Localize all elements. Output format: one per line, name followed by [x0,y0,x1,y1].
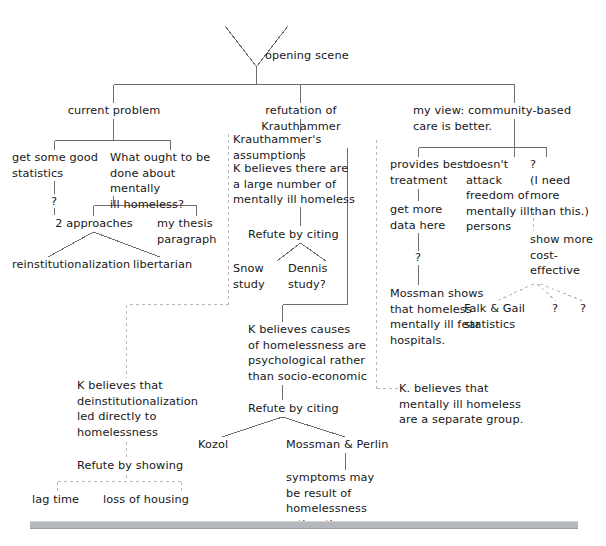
node-k-believes-separate-group: K. believes that mentally ill homeless a… [399,381,529,428]
node-krauthammers-assumptions: Krauthammer's assumptions [233,132,383,163]
node-k-believes-causes-psychological: K believes causes of homelessness are ps… [248,322,384,384]
node-two-approaches: 2 approaches [48,216,140,232]
node-get-some-good-statistics: get some good statistics [12,150,104,181]
node-refute-by-citing-1: Refute by citing [248,227,358,243]
node-dennis-study: Dennis study? [288,261,346,292]
node-current-problem: current problem [58,103,170,119]
node-reinstitutionalization: reinstitutionalization [12,257,132,273]
node-my-view-community-based: my view: community-based care is better. [413,103,593,134]
node-kozol: Kozol [198,437,248,453]
node-refute-by-showing: Refute by showing [77,458,197,474]
node-show-more-cost-effective: show more cost- effective [530,232,602,279]
node-cost-question-1: ? [552,301,558,317]
node-get-more-data-here: get more data here [390,202,462,233]
footer-divider-bar [30,521,578,529]
node-opening-scene: opening scene [265,48,349,64]
node-refutation-of-krauthammer: refutation of Krauthammer [228,103,374,134]
node-libertarian: libertarian [133,257,213,273]
node-k-believes-deinstitutionalization: K believes that deinstitutionalization l… [77,378,197,440]
node-cost-question-2: ? [580,301,586,317]
node-refute-by-citing-2: Refute by citing [248,401,358,417]
node-my-thesis-paragraph: my thesis paragraph [157,216,227,247]
node-lag-time: lag time [32,492,90,508]
node-need-more-than-this: ? (I need more than this.) [530,157,600,219]
node-k-believes-large-number: K believes there are a large number of m… [233,161,363,208]
node-mossman-and-perlin: Mossman & Perlin [286,437,406,453]
node-loss-of-housing: loss of housing [103,492,203,508]
node-doesnt-attack-freedom: doesn't attack freedom of mentally ill p… [466,157,530,235]
node-stats-question: ? [51,194,57,210]
node-provides-best-treatment: provides best treatment [390,157,474,188]
node-snow-study: Snow study [233,261,281,292]
node-what-ought-to-be-done: What ought to be done about mentally ill… [110,150,222,212]
node-falk-and-gail-statistics: Falk & Gail statistics [464,301,534,332]
diagram-canvas: opening scene current problem refutation… [0,0,606,546]
node-treatment-question: ? [415,250,421,266]
